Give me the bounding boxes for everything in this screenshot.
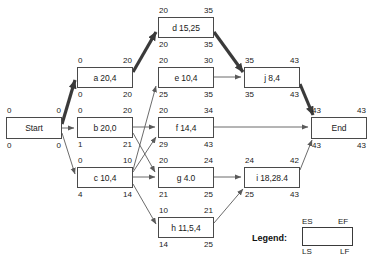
- node-g-ls: 21: [159, 190, 168, 199]
- node-h-ef: 21: [204, 206, 213, 215]
- node-c-es: 0: [78, 156, 82, 165]
- node-i-label: i 18,28.4: [256, 173, 288, 183]
- node-b-ef: 20: [123, 106, 132, 115]
- legend-ef-label: EF: [338, 217, 348, 226]
- node-g-es: 20: [159, 156, 168, 165]
- node-e-label: e 10,4: [174, 73, 197, 83]
- node-b-ls: 1: [78, 140, 82, 149]
- node-d[interactable]: 20 35 d 15,25 20 35: [158, 6, 214, 49]
- node-end-ef: 43: [357, 106, 366, 115]
- node-d-ls: 20: [159, 40, 168, 49]
- node-h[interactable]: 10 21 h 11,5,4 14 25: [158, 206, 214, 249]
- node-e-ls: 25: [159, 90, 168, 99]
- node-a-ls: 0: [78, 90, 82, 99]
- node-i-es: 24: [245, 156, 254, 165]
- node-d-ef: 35: [204, 6, 213, 15]
- node-g-label: g 4.0: [177, 173, 195, 183]
- node-i[interactable]: 24 42 i 18,28.4 25 43: [244, 156, 300, 199]
- node-a-lf: 20: [123, 90, 132, 99]
- edge-a-d: [133, 32, 156, 72]
- legend: Legend: ES EF LS LF: [252, 216, 374, 262]
- node-j-ls: 35: [245, 90, 254, 99]
- node-start-lf: 0: [57, 141, 61, 150]
- node-h-ls: 14: [159, 240, 168, 249]
- node-e-ef: 30: [204, 56, 213, 65]
- node-e[interactable]: 20 30 e 10,4 25 35: [158, 56, 214, 99]
- node-j-lf: 43: [290, 90, 299, 99]
- edge-b-g: [133, 133, 155, 172]
- edge-h-i: [214, 189, 243, 223]
- node-f[interactable]: 20 34 f 14,4 29 43: [158, 106, 214, 149]
- node-d-box[interactable]: d 15,25: [158, 17, 214, 38]
- node-h-box[interactable]: h 11,5,4: [158, 217, 214, 238]
- node-b-label: b 20,0: [93, 123, 116, 133]
- legend-es-label: ES: [302, 217, 313, 226]
- node-f-label: f 14,4: [176, 123, 197, 133]
- node-h-lf: 25: [204, 240, 213, 249]
- node-d-es: 20: [159, 6, 168, 15]
- node-start-box[interactable]: Start: [6, 117, 62, 139]
- node-j-ef: 43: [290, 56, 299, 65]
- node-b[interactable]: 0 20 b 20,0 1 21: [77, 106, 133, 149]
- edge-d-j: [214, 32, 243, 72]
- node-start-ef: 0: [57, 106, 61, 115]
- node-a-box[interactable]: a 20,4: [77, 67, 133, 88]
- node-i-ls: 25: [245, 190, 254, 199]
- edge-start-a: [62, 80, 75, 124]
- node-f-es: 20: [159, 106, 168, 115]
- node-end-box[interactable]: End: [311, 117, 367, 139]
- node-b-es: 0: [78, 106, 82, 115]
- node-h-label: h 11,5,4: [171, 223, 200, 233]
- cpm-network-diagram: 0 0 Start 0 0 0 20 a 20,4 0 20 0 20 b 20…: [0, 0, 377, 267]
- node-j-label: j 8,4: [264, 73, 280, 83]
- node-g-lf: 25: [204, 190, 213, 199]
- edge-start-c: [62, 133, 75, 174]
- node-j[interactable]: 35 43 j 8,4 35 43: [244, 56, 300, 99]
- edge-c-h: [133, 184, 156, 224]
- node-end[interactable]: 43 43 End 43 43: [311, 106, 367, 150]
- edge-c-e: [133, 86, 156, 170]
- node-f-box[interactable]: f 14,4: [158, 117, 214, 138]
- node-e-lf: 35: [204, 90, 213, 99]
- node-c-lf: 14: [123, 190, 132, 199]
- node-e-box[interactable]: e 10,4: [158, 67, 214, 88]
- node-f-lf: 43: [204, 140, 213, 149]
- legend-ls-label: LS: [302, 247, 312, 256]
- node-end-es: 43: [312, 106, 321, 115]
- node-start-es: 0: [7, 106, 11, 115]
- node-d-label: d 15,25: [172, 23, 200, 33]
- node-j-box[interactable]: j 8,4: [244, 67, 300, 88]
- legend-lf-label: LF: [340, 247, 349, 256]
- node-b-box[interactable]: b 20,0: [77, 117, 133, 138]
- node-b-lf: 21: [123, 140, 132, 149]
- node-a[interactable]: 0 20 a 20,4 0 20: [77, 56, 133, 99]
- node-e-es: 20: [159, 56, 168, 65]
- node-i-box[interactable]: i 18,28.4: [244, 167, 300, 188]
- node-g[interactable]: 20 24 g 4.0 21 25: [158, 156, 214, 199]
- node-g-ef: 24: [204, 156, 213, 165]
- node-c-ls: 4: [78, 190, 82, 199]
- node-j-es: 35: [245, 56, 254, 65]
- node-i-ef: 42: [290, 156, 299, 165]
- node-g-box[interactable]: g 4.0: [158, 167, 214, 188]
- node-a-ef: 20: [123, 56, 132, 65]
- node-f-ls: 29: [159, 140, 168, 149]
- node-c[interactable]: 0 10 c 10,4 4 14: [77, 156, 133, 199]
- node-end-lf: 43: [357, 141, 366, 150]
- legend-box: [302, 227, 353, 246]
- node-a-label: a 20,4: [93, 73, 116, 83]
- node-end-ls: 43: [312, 141, 321, 150]
- node-c-box[interactable]: c 10,4: [77, 167, 133, 188]
- node-end-label: End: [332, 123, 347, 133]
- node-start-label: Start: [25, 123, 42, 133]
- node-c-ef: 10: [123, 156, 132, 165]
- node-a-es: 0: [78, 56, 82, 65]
- node-h-es: 10: [159, 206, 168, 215]
- node-d-lf: 35: [204, 40, 213, 49]
- node-start-ls: 0: [7, 141, 11, 150]
- node-start[interactable]: 0 0 Start 0 0: [6, 106, 62, 150]
- node-i-lf: 43: [290, 190, 299, 199]
- node-c-label: c 10,4: [94, 173, 117, 183]
- legend-title: Legend:: [252, 233, 287, 243]
- node-f-ef: 34: [204, 106, 213, 115]
